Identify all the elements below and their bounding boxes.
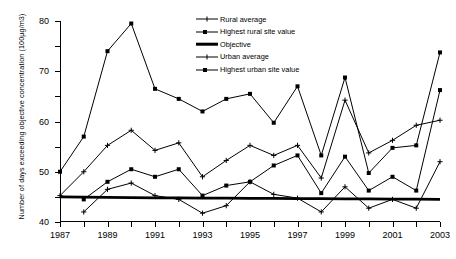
y-tick-label: 50 [39,167,49,177]
chart-container: Number of days exceeding objective conce… [0,0,456,259]
x-tick [179,222,180,227]
data-point [272,163,276,167]
legend-label: Highest rural site value [220,28,295,35]
y-axis-title: Number of days exceeding objective conce… [17,10,26,224]
legend-item-highest-urban-site-value[interactable]: Highest urban site value [196,63,299,76]
x-tick-label: 1997 [287,230,307,240]
x-tick [440,222,441,227]
series-highest-rural-site-value [82,88,442,201]
data-point [272,121,276,125]
x-tick [416,222,417,227]
data-point [224,184,228,188]
x-tick-label: 1999 [335,230,355,240]
data-point [153,87,157,91]
data-point [201,109,205,113]
x-tick [250,222,251,227]
x-tick [155,222,156,227]
data-point [367,189,371,193]
y-tick-label: 40 [39,217,49,227]
data-point [129,22,133,26]
data-point [129,167,133,171]
x-tick-label: 2001 [382,230,402,240]
legend-label: Highest urban site value [220,66,299,73]
series-objective [60,197,440,200]
x-tick [369,222,370,227]
x-tick [226,222,227,227]
legend-label: Objective [220,41,251,48]
data-point [391,146,395,150]
legend-marker-icon [196,27,218,37]
data-point [296,153,300,157]
legend-item-objective[interactable]: Objective [196,38,299,51]
legend-label: Urban average [220,53,269,60]
x-tick-label: 1989 [97,230,117,240]
legend-item-rural-average[interactable]: Rural average [196,13,299,26]
data-point [343,155,347,159]
data-point [224,97,228,101]
legend-marker-icon [196,14,218,24]
legend-item-urban-average[interactable]: Urban average [196,51,299,64]
legend-marker-icon [196,52,218,62]
data-point [367,171,371,175]
y-tick-label: 70 [39,66,49,76]
data-point [414,189,418,193]
data-point [106,49,110,53]
data-point [391,175,395,179]
data-point [153,175,157,179]
x-tick [108,222,109,227]
data-point [438,88,442,92]
legend-item-highest-rural-site-value[interactable]: Highest rural site value [196,26,299,39]
x-tick-label: 1987 [50,230,70,240]
data-point [438,50,442,54]
x-tick [393,222,394,227]
x-tick [274,222,275,227]
legend-marker-icon [196,39,218,49]
x-tick-label: 1991 [145,230,165,240]
x-tick [298,222,299,227]
data-point [248,180,252,184]
data-point [414,143,418,147]
data-point [106,180,110,184]
data-point [296,84,300,88]
data-point [319,191,323,195]
y-tick-label: 60 [39,117,49,127]
data-point [319,153,323,157]
data-point [177,167,181,171]
x-tick-label: 1995 [240,230,260,240]
x-tick-label: 1993 [192,230,212,240]
chart-legend: Rural averageHighest rural site valueObj… [196,13,299,76]
y-tick-label: 80 [39,16,49,26]
x-tick-label: 2003 [430,230,450,240]
data-point [82,135,86,139]
data-point [177,97,181,101]
x-tick [321,222,322,227]
data-point [248,92,252,96]
series-rural-average [81,159,442,216]
legend-label: Rural average [220,16,266,23]
x-tick [131,222,132,227]
data-point [58,170,62,174]
x-tick [203,222,204,227]
x-tick [345,222,346,227]
x-tick [60,222,61,227]
data-point [343,76,347,80]
legend-marker-icon [196,65,218,75]
x-tick [84,222,85,227]
